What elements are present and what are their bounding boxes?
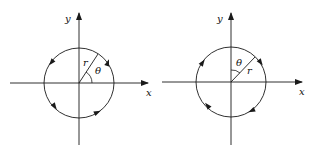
right-y-label: y [216, 13, 223, 24]
left-diagram: y x r θ [10, 13, 152, 145]
right-diagram: y x θ r [162, 13, 305, 145]
left-r-label: r [83, 57, 89, 68]
left-angle-arc [86, 72, 92, 83]
left-y-label: y [64, 13, 71, 24]
arrow-icon [51, 102, 59, 111]
right-angle-arc [231, 70, 240, 73]
left-x-label: x [146, 87, 152, 98]
right-x-label: x [299, 86, 305, 97]
left-theta-label: θ [95, 65, 101, 76]
right-theta-label: θ [236, 57, 242, 68]
right-r-label: r [247, 65, 253, 76]
diagram-canvas: y x r θ y x θ r [0, 0, 310, 152]
